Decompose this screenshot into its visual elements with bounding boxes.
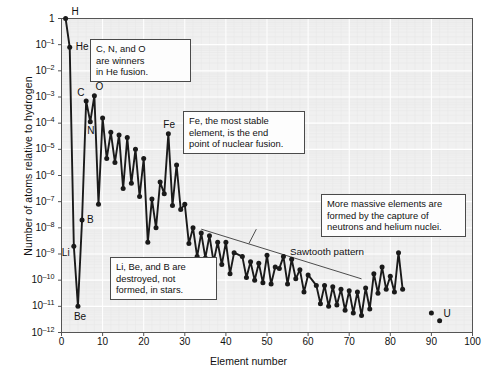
data-point [375,291,380,296]
data-point [355,289,360,294]
y-axis-label: Number of atoms relative to hydrogen [22,56,34,276]
data-point [129,181,134,186]
x-tick-label: 90 [411,336,451,347]
data-point [166,131,171,136]
x-tick-label: 10 [83,336,123,347]
y-tick-label: 10–10 [0,275,55,285]
point-label-h: H [72,7,79,17]
data-point [281,254,286,259]
data-point [429,310,434,315]
data-point [232,250,237,255]
data-point [240,254,245,259]
data-point [388,274,393,279]
data-point [228,271,233,276]
point-label-he: He [76,42,89,52]
y-tick-label: 10–6 [0,171,55,181]
data-point [108,130,113,135]
x-tick-label: 30 [165,336,205,347]
point-label-li: Li [62,248,70,258]
data-point [199,231,204,236]
data-point [191,225,196,230]
data-point [125,135,130,140]
y-tick-label: 10–5 [0,144,55,154]
callout-iron: Fe, the most stable element, is the end … [183,111,305,154]
data-point [158,180,163,185]
data-point [285,282,290,287]
data-point [223,240,228,245]
point-label-n: N [87,126,94,136]
x-tick-label: 70 [329,336,369,347]
x-tick-label: 60 [288,336,328,347]
x-tick-label: 20 [124,336,164,347]
data-point [244,275,249,280]
data-point [75,304,80,309]
data-point [371,271,376,276]
x-tick-label: 0 [42,336,82,347]
y-tick-label: 10–9 [0,249,55,259]
data-point [178,207,183,212]
data-point [252,278,257,283]
data-point [293,276,298,281]
data-point [322,283,327,288]
data-point [256,261,261,266]
x-tick-label: 80 [370,336,410,347]
abundance-chart-figure: Number of atoms relative to hydrogen Ele… [0,0,497,379]
data-point [84,98,89,103]
data-point [384,287,389,292]
point-label-be: Be [74,312,86,322]
data-point [265,253,270,258]
data-point [88,119,93,124]
data-point [277,266,282,271]
data-point [117,132,122,137]
data-point [154,225,159,230]
data-point [330,284,335,289]
data-point [174,163,179,168]
data-point [149,197,154,202]
data-point [145,240,150,245]
data-point [318,301,323,306]
data-point [96,202,101,207]
data-point [392,289,397,294]
data-point [121,186,126,191]
y-tick-label: 10–4 [0,118,55,128]
data-point [260,280,265,285]
data-point [367,306,372,311]
point-label-o: O [95,82,103,92]
data-point [248,259,253,264]
data-point [100,115,105,120]
data-point [400,287,405,292]
callout-li-be-b: Li, Be, and B are destroyed, not formed,… [110,257,217,300]
data-point [162,191,167,196]
data-point [186,241,191,246]
y-tick-label: 10–3 [0,92,55,102]
data-point [289,257,294,262]
data-point [347,288,352,293]
y-tick-label: 10–1 [0,40,55,50]
x-axis-label: Element number [0,355,497,367]
data-point [338,287,343,292]
y-tick-label: 1 [0,14,55,24]
data-point [269,282,274,287]
data-point [306,272,311,277]
data-point [63,16,68,21]
data-point [314,283,319,288]
point-label-fe: Fe [163,120,175,130]
y-tick-label: 10–2 [0,66,55,76]
data-point [396,250,401,255]
annotation-sawtooth: Sawtooth pattern [290,246,364,257]
data-point [297,267,302,272]
x-tick-label: 100 [453,336,493,347]
data-point [380,265,385,270]
x-tick-label: 50 [247,336,287,347]
data-point [80,217,85,222]
data-point [363,286,368,291]
data-point [215,240,220,245]
callout-cno: C, N, and O are winners in He fusion. [90,39,191,82]
data-point [343,308,348,313]
data-point [182,202,187,207]
data-point [219,262,224,267]
data-point [71,244,76,249]
point-label-c: C [77,88,84,98]
x-tick-label: 40 [206,336,246,347]
data-point [207,233,212,238]
